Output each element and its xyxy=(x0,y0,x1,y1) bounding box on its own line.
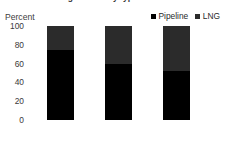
legend-label-pipeline: Pipeline xyxy=(158,11,188,21)
y-tick-label: 80 xyxy=(2,41,24,49)
bar-segment-pipeline[interactable] xyxy=(47,50,74,120)
bar-group-2000[interactable] xyxy=(47,26,74,120)
bar-segment-lng[interactable] xyxy=(105,26,132,64)
legend-swatch-lng xyxy=(195,14,200,19)
y-tick-label: 40 xyxy=(2,78,24,86)
y-axis-ticks: 100 80 60 40 20 0 xyxy=(0,26,24,120)
y-tick-label: 0 xyxy=(2,116,24,124)
bar-group-2019[interactable] xyxy=(163,26,190,120)
chart-legend: Pipeline LNG xyxy=(151,11,220,21)
chart-title-clipped: Natural gas trade by type xyxy=(36,0,216,3)
bar-segment-lng[interactable] xyxy=(163,26,190,71)
stacked-bar-chart: Natural gas trade by type Percent Pipeli… xyxy=(0,0,226,144)
bar-segment-pipeline[interactable] xyxy=(163,71,190,120)
plot-area: 2000 2010 2019 xyxy=(26,26,222,120)
bar-segment-pipeline[interactable] xyxy=(105,64,132,120)
legend-item-pipeline[interactable]: Pipeline xyxy=(151,11,188,21)
bar-segment-lng[interactable] xyxy=(47,26,74,50)
y-tick-label: 60 xyxy=(2,59,24,67)
y-tick-label: 20 xyxy=(2,97,24,105)
legend-item-lng[interactable]: LNG xyxy=(195,11,220,21)
bar-group-2010[interactable] xyxy=(105,26,132,120)
legend-swatch-pipeline xyxy=(151,14,156,19)
y-tick-label: 100 xyxy=(2,22,24,30)
legend-label-lng: LNG xyxy=(203,11,220,21)
